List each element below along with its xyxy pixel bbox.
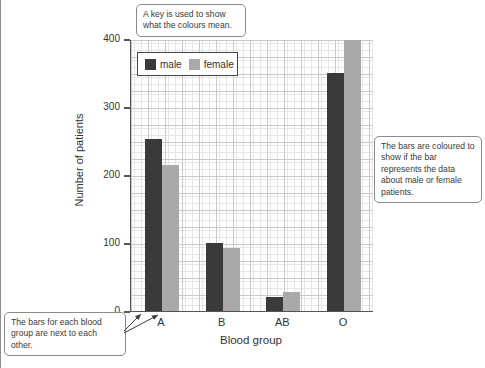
y-axis-tick-label: 400 [94,33,120,44]
legend-item-male: male [145,59,182,70]
plot-area [130,40,373,312]
legend-swatch-female-icon [189,59,200,70]
bar-a-female [162,165,179,311]
bar-a-male [145,139,162,311]
bar-ab-female [283,292,300,311]
legend-label-female: female [204,59,234,70]
y-axis-tick-label: 200 [94,169,120,180]
bar-ab-male [266,297,283,311]
legend-swatch-male-icon [145,59,156,70]
x-axis-title: Blood group [220,334,282,346]
y-axis-tick-label: 300 [94,101,120,112]
callout-key: A key is used to show what the colours m… [136,4,246,37]
legend-label-male: male [160,59,182,70]
legend-item-female: female [189,59,234,70]
callout-bar-colours: The bars are coloured to show if the bar… [374,136,482,203]
bar-b-male [206,243,223,311]
bar-o-male [327,73,344,311]
y-axis-tick [124,39,130,40]
y-axis-title: Number of patients [73,114,85,207]
y-axis-tick [124,243,130,244]
y-axis-tick [124,175,130,176]
callout-bar-grouping: The bars for each blood group are next t… [4,312,126,356]
x-axis-tick-label-o: O [339,316,348,328]
y-axis-tick-label: 100 [94,237,120,248]
bar-b-female [223,248,240,311]
x-axis-tick-label-a: A [157,316,164,328]
y-axis-tick [124,311,130,312]
y-axis-tick [124,107,130,108]
bar-o-female [344,40,361,311]
x-axis-tick-label-ab: AB [275,316,290,328]
worksheet-page: 0100200300400 Number of patients ABABO B… [0,0,485,368]
chart-legend: male female [137,52,238,76]
x-axis-tick-label-b: B [218,316,225,328]
